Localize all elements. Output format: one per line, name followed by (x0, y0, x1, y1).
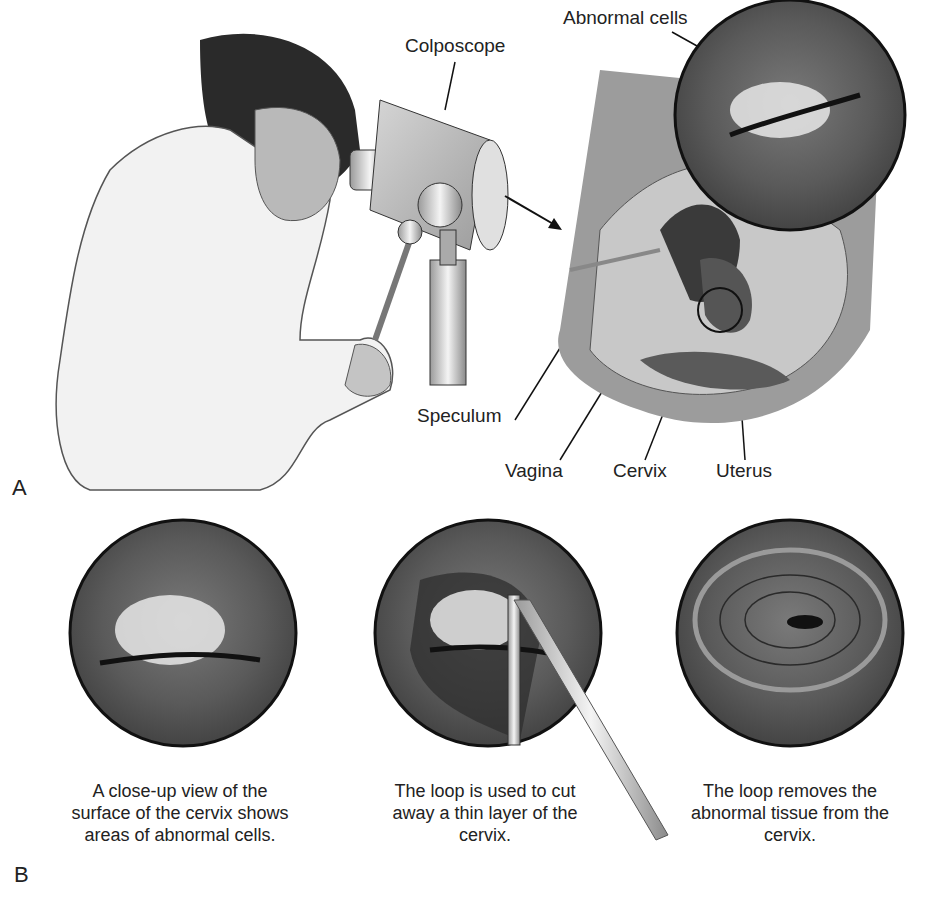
label-speculum: Speculum (417, 405, 502, 427)
closeup-circle-1 (70, 520, 296, 746)
doctor-figure (56, 34, 392, 490)
illustration-canvas (0, 0, 931, 899)
caption-closeup-view: A close-up view of the surface of the ce… (70, 780, 290, 846)
view-arrow (505, 196, 562, 230)
label-uterus: Uterus (716, 460, 772, 482)
caption-loop-cut: The loop is used to cut away a thin laye… (375, 780, 595, 846)
caption-loop-removes: The loop removes the abnormal tissue fro… (680, 780, 900, 846)
panel-letter-a: A (12, 475, 27, 501)
abnormal-cells-magnifier (675, 0, 905, 230)
label-vagina: Vagina (505, 460, 563, 482)
label-abnormal-cells: Abnormal cells (563, 7, 688, 29)
closeup-circle-3 (677, 520, 903, 746)
label-cervix: Cervix (613, 460, 667, 482)
label-colposcope: Colposcope (405, 35, 505, 57)
panel-letter-b: B (14, 862, 29, 888)
